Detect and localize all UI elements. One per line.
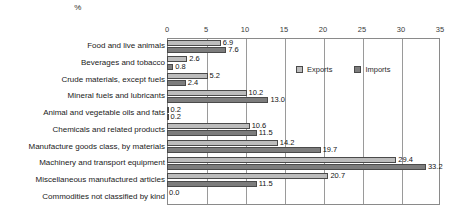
category-label: Crude materials, except fuels <box>61 76 165 84</box>
bar-imports <box>167 97 268 103</box>
chart-row: Manufacture goods class, by materials14.… <box>0 138 464 155</box>
bar-group: 29.433.2 <box>167 155 440 172</box>
chart-row: Animal and vegetable oils and fats0.20.2 <box>0 105 464 122</box>
bar-value-label: 11.5 <box>259 181 273 187</box>
bar-group: 10.213.0 <box>167 88 440 105</box>
x-tick-label: 35 <box>436 25 444 34</box>
bar-value-label: 0.8 <box>175 64 185 70</box>
x-tick-label: 0 <box>165 25 169 34</box>
axis-title-text: % <box>74 3 81 12</box>
category-label: Beverages and tobacco <box>81 59 165 67</box>
x-tick-label: 15 <box>280 25 288 34</box>
bar-value-label: 19.7 <box>323 147 338 153</box>
bar-value-label: 0.2 <box>171 114 181 120</box>
bar-imports <box>167 130 257 136</box>
bar-value-label: 14.2 <box>280 140 295 146</box>
x-tick-label: 5 <box>204 25 208 34</box>
bar-group: 0.0 <box>167 188 440 205</box>
bar-group: 0.20.2 <box>167 105 440 122</box>
bar-exports <box>167 90 247 96</box>
bar-value-label: 10.2 <box>249 90 264 96</box>
legend-swatch-exports <box>296 66 303 73</box>
bar-exports <box>167 40 221 46</box>
bar-value-label: 13.0 <box>270 97 285 103</box>
x-tick-label: 30 <box>397 25 405 34</box>
bar-imports <box>167 64 173 70</box>
bar-chart: % 05101520253035 Food and live animals6.… <box>0 0 464 222</box>
legend-label: Imports <box>365 65 390 74</box>
bar-group: 6.97.6 <box>167 38 440 55</box>
category-rows: Food and live animals6.97.6Beverages and… <box>0 38 464 205</box>
bar-imports <box>167 114 169 120</box>
category-label: Miscellaneous manufactured articles <box>36 176 165 184</box>
chart-row: Crude materials, except fuels5.22.4 <box>0 71 464 88</box>
bar-exports <box>167 173 328 179</box>
category-label: Animal and vegetable oils and fats <box>43 109 165 117</box>
x-tick-label: 10 <box>241 25 249 34</box>
bar-imports <box>167 181 257 187</box>
bar-group: 14.219.7 <box>167 138 440 155</box>
bar-exports <box>167 107 169 113</box>
chart-row: Miscellaneous manufactured articles20.71… <box>0 172 464 189</box>
bar-imports <box>167 164 426 170</box>
chart-row: Mineral fuels and lubricants10.213.0 <box>0 88 464 105</box>
chart-row: Machinery and transport equipment29.433.… <box>0 155 464 172</box>
bar-imports <box>167 80 186 86</box>
axis-title-percent: % <box>0 3 464 12</box>
bar-value-label: 5.2 <box>210 73 220 79</box>
category-label: Chemicals and related products <box>52 126 165 134</box>
bar-value-label: 11.5 <box>259 130 273 136</box>
chart-row: Commodities not classified by kind0.0 <box>0 188 464 205</box>
x-tick-label: 20 <box>319 25 327 34</box>
x-tick-label: 25 <box>358 25 366 34</box>
category-label: Manufacture goods class, by materials <box>28 143 165 151</box>
bar-imports <box>167 47 226 53</box>
category-label: Machinery and transport equipment <box>39 159 165 167</box>
category-label: Mineral fuels and lubricants <box>68 92 165 100</box>
bar-value-label: 2.6 <box>189 56 199 62</box>
legend-swatch-imports <box>354 66 361 73</box>
bar-value-label: 33.2 <box>428 164 443 170</box>
bar-exports <box>167 157 396 163</box>
chart-row: Food and live animals6.97.6 <box>0 38 464 55</box>
bar-exports <box>167 123 250 129</box>
legend-item-imports: Imports <box>354 65 390 74</box>
chart-row: Chemicals and related products10.611.5 <box>0 122 464 139</box>
bar-value-label: 7.6 <box>228 47 238 53</box>
category-label: Commodities not classified by kind <box>42 193 165 201</box>
bar-group: 20.711.5 <box>167 172 440 189</box>
category-label: Food and live animals <box>87 42 165 50</box>
bar-exports <box>167 140 278 146</box>
bar-value-label: 2.4 <box>188 80 198 86</box>
legend-item-exports: Exports <box>296 65 332 74</box>
bar-group: 10.611.5 <box>167 122 440 139</box>
bar-value-label: 29.4 <box>398 157 413 163</box>
chart-legend: ExportsImports <box>296 63 390 75</box>
bar-value-label: 0.0 <box>169 190 179 196</box>
bar-imports <box>167 147 321 153</box>
legend-label: Exports <box>307 65 332 74</box>
x-axis-tick-labels: 05101520253035 <box>167 25 440 37</box>
bar-value-label: 20.7 <box>330 173 345 179</box>
chart-row: Beverages and tobacco2.60.8 <box>0 55 464 72</box>
